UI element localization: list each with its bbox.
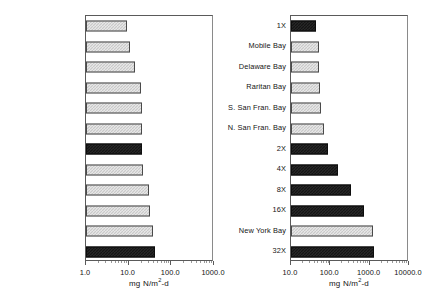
bar-n-san-fran-bay (291, 123, 324, 134)
x-tick-label: 100.0 (161, 268, 180, 277)
bar-new-york-bay (291, 226, 373, 237)
x-tick-minor (126, 261, 127, 263)
x-tick-minor (323, 261, 324, 263)
x-tick-minor (353, 261, 354, 263)
x-tick-minor (191, 261, 192, 263)
x-tick-minor (121, 261, 122, 263)
x-tick-minor (148, 261, 149, 263)
x-tick-minor (365, 261, 366, 263)
x-tick-major (128, 261, 129, 265)
bar-row (291, 201, 407, 222)
x-tick-minor (328, 261, 329, 263)
x-tick-minor (204, 261, 205, 263)
bar-2x (291, 144, 328, 155)
x-tick-minor (396, 261, 397, 263)
x-tick-minor (115, 261, 116, 263)
bar-row (291, 221, 407, 242)
bar-row (291, 160, 407, 181)
x-tick-label: 1000.0 (201, 268, 224, 277)
category-label: S. San Fran. Bay (136, 103, 286, 112)
category-label: N. San Fran. Bay (136, 123, 286, 132)
x-tick-minor (153, 261, 154, 263)
x-tick-minor (399, 261, 400, 263)
x-tick-minor (206, 261, 207, 263)
x-axis-title-right: mg N/m2-d (329, 279, 369, 289)
category-label: Raritan Bay (136, 82, 286, 91)
x-tick-minor (404, 261, 405, 263)
bar-1x (291, 21, 316, 32)
bar-mobile-bay (291, 41, 319, 52)
x-tick-minor (357, 261, 358, 263)
bar-massachusetts-bay (86, 41, 130, 52)
bar-s-san-fran-bay (291, 103, 321, 114)
category-label: Delaware Bay (136, 62, 286, 71)
x-tick-minor (402, 261, 403, 263)
bar-8x (291, 185, 351, 196)
x-tick-major (369, 261, 370, 265)
x-tick-minor (302, 261, 303, 263)
bar-long-island-sound (86, 62, 135, 73)
x-tick-minor (406, 261, 407, 263)
x-tick-minor (183, 261, 184, 263)
bar-0x (86, 144, 142, 155)
x-tick-minor (314, 261, 315, 263)
bar-row (291, 78, 407, 99)
x-tick-minor (157, 261, 158, 263)
bar-16x (291, 205, 364, 216)
bar-apalachicola-bay (86, 103, 142, 114)
category-label: 32X (136, 246, 286, 255)
category-label: Mobile Bay (136, 41, 286, 50)
x-tick-major (85, 261, 86, 265)
category-label: 8X (136, 185, 286, 194)
x-tick-label: 10000.0 (394, 268, 421, 277)
x-tick-minor (367, 261, 368, 263)
x-tick-major (290, 261, 291, 265)
bars-container-left (86, 16, 212, 260)
x-tick-minor (124, 261, 125, 263)
bar-row (291, 57, 407, 78)
bar-row (291, 180, 407, 201)
bar-chesapeake-bay (86, 82, 141, 93)
x-tick-label: 1.0 (80, 268, 91, 277)
x-tick-minor (161, 261, 162, 263)
x-tick-minor (317, 261, 318, 263)
x-tick-minor (164, 261, 165, 263)
x-tick-label: 100.0 (320, 268, 339, 277)
bar-kaneohe-bay (86, 21, 127, 32)
category-label: New York Bay (136, 226, 286, 235)
x-tick-minor (118, 261, 119, 263)
bars-container-right (291, 16, 407, 260)
x-tick-minor (211, 261, 212, 263)
x-tick-minor (387, 261, 388, 263)
x-tick-minor (98, 261, 99, 263)
x-tick-minor (392, 261, 393, 263)
bar-row (291, 139, 407, 160)
figure-root: Kaneohe BayMassachusetts BayLong Island … (0, 0, 448, 306)
x-tick-minor (166, 261, 167, 263)
category-label: 16X (136, 205, 286, 214)
bar-row (291, 242, 407, 263)
x-tick-major (213, 261, 214, 265)
x-tick-minor (105, 261, 106, 263)
category-label: 1X (136, 21, 286, 30)
bar-row (291, 37, 407, 58)
x-tick-minor (111, 261, 112, 263)
x-axis-title-left: mg N/m2-d (129, 279, 169, 289)
plot-area-left (85, 15, 213, 261)
x-tick-label: 1000.0 (357, 268, 380, 277)
x-tick-minor (200, 261, 201, 263)
plot-area-right (290, 15, 408, 261)
bar-row (291, 16, 407, 37)
x-tick-minor (363, 261, 364, 263)
x-tick-minor (209, 261, 210, 263)
bar-32x (291, 246, 374, 257)
x-tick-major (170, 261, 171, 265)
x-tick-minor (196, 261, 197, 263)
x-tick-minor (168, 261, 169, 263)
x-tick-minor (341, 261, 342, 263)
x-tick-label: 10.0 (283, 268, 298, 277)
x-tick-label: 10.0 (120, 268, 135, 277)
bar-raritan-bay (291, 82, 320, 93)
x-tick-major (329, 261, 330, 265)
bar-row (291, 119, 407, 140)
